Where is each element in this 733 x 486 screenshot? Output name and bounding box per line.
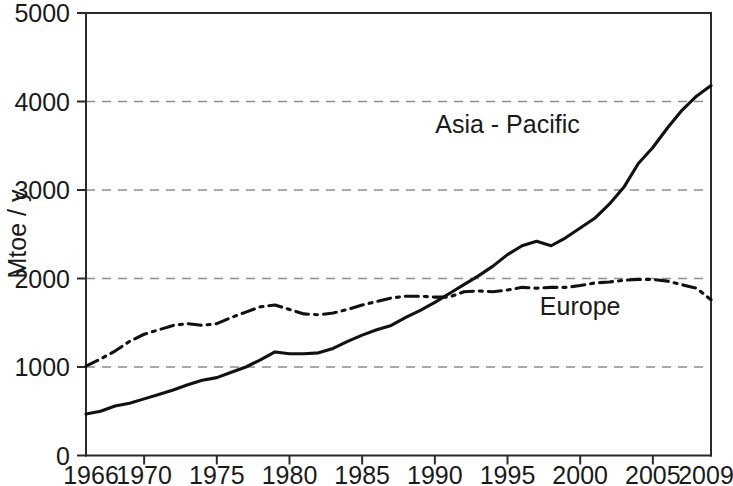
x-tick-label: 1970 <box>116 461 172 486</box>
series-line-asia-pacific <box>86 86 711 414</box>
y-axis-title: Mtoe / y <box>3 189 31 278</box>
x-tick-label: 2005 <box>625 461 681 486</box>
gridlines-group <box>86 102 711 368</box>
y-tick-label: 5000 <box>14 0 70 27</box>
x-tick-label: 2000 <box>552 461 608 486</box>
chart-figure: 010002000300040005000 196619701975198019… <box>0 0 733 486</box>
x-tick-label: 1995 <box>480 461 536 486</box>
x-tick-label: 1985 <box>334 461 390 486</box>
x-tick-label: 1990 <box>407 461 463 486</box>
x-tick-label: 1975 <box>189 461 245 486</box>
y-tick-label: 1000 <box>14 353 70 381</box>
energy-consumption-line-chart: 010002000300040005000 196619701975198019… <box>0 0 733 486</box>
y-tick-label: 4000 <box>14 88 70 116</box>
data-series-group <box>86 86 711 414</box>
x-axis-tick-labels-group: 1966197019751980198519901995200020052009 <box>63 461 733 486</box>
x-tick-label: 1966 <box>63 461 119 486</box>
x-tick-label: 2009 <box>678 461 733 486</box>
x-tick-label: 1980 <box>262 461 318 486</box>
series-label-europe: Europe <box>540 292 621 320</box>
y-axis-ticks-group <box>77 13 86 456</box>
series-label-asia-pacific: Asia - Pacific <box>435 110 579 138</box>
